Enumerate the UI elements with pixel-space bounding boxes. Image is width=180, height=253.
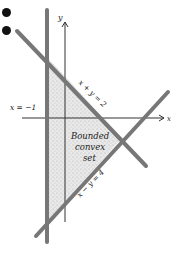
x-axis-label: x <box>167 115 171 123</box>
y-axis-label: y <box>57 13 63 22</box>
region-label-line3: set <box>83 153 96 163</box>
label-x-equals-minus-1: x = −1 <box>10 103 36 112</box>
region-label-line2: convex <box>75 142 105 152</box>
region-label-line1: Bounded <box>70 131 110 141</box>
convex-set-diagram: y x x = −1 x + y = 2 x − y = 4 Bounded c… <box>0 0 180 253</box>
